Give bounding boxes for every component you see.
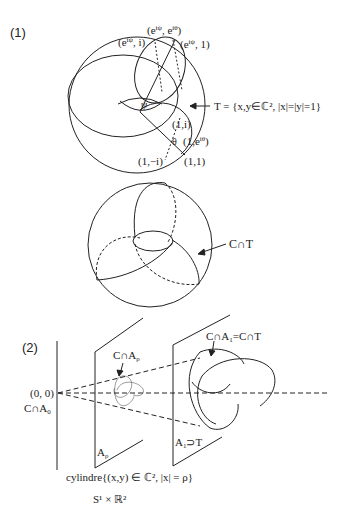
c-cap-a0-label: C∩A0 xyxy=(24,403,51,416)
torus-definition: T = {x,y∈ℂ², |x|=|y|=1} xyxy=(214,101,321,112)
label-psi: ψ xyxy=(141,100,147,110)
label-e-psi-i: (eiψ, i) xyxy=(118,37,145,48)
label-e-psi-e-theta: (eiψ, eiθ) xyxy=(147,25,181,36)
label-1-1: (1,1) xyxy=(184,156,205,167)
part-2-label: (2) xyxy=(22,341,38,354)
origin-label: (0, 0) xyxy=(30,388,54,399)
part-1-label: (1) xyxy=(10,26,26,39)
label-1-i: (1,i) xyxy=(172,119,191,130)
label-e-psi-1: (eiψ, 1) xyxy=(180,39,210,50)
cylinder-caption: cylindre{(x,y) ∈ ℂ², |x| = ρ} xyxy=(66,472,193,483)
label-1-e-theta: (1,eiθ) xyxy=(183,136,209,147)
a-rho-label: Aρ xyxy=(97,447,108,460)
label-theta: θ xyxy=(172,137,177,147)
c-cap-a-rho-label: C∩Aρ xyxy=(113,350,140,363)
sphere-c-cap-t-label: C∩T xyxy=(229,238,253,250)
sphere xyxy=(88,183,212,307)
product-caption: S¹ × ℝ² xyxy=(93,494,126,505)
diagram-canvas xyxy=(0,0,342,517)
c-cap-a1-label: C∩A1=C∩T xyxy=(206,331,261,344)
label-1-minus-i: (1,−i) xyxy=(138,156,163,167)
a1-supset-t-label: A1⊃T xyxy=(175,437,202,450)
